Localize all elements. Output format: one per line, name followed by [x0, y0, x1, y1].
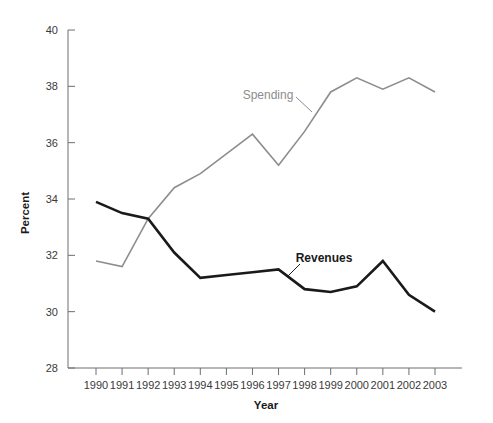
y-tick-label: 38	[46, 80, 58, 92]
y-tick-label: 34	[46, 193, 58, 205]
x-tick-label: 1997	[266, 379, 290, 391]
x-tick-label: 2003	[423, 379, 447, 391]
x-tick-label: 1993	[162, 379, 186, 391]
y-tick-label: 28	[46, 362, 58, 374]
series-line-revenues	[96, 202, 435, 312]
leader-line-spending	[296, 97, 312, 112]
x-tick-label: 2001	[371, 379, 395, 391]
x-tick-label: 1992	[136, 379, 160, 391]
x-tick-label: 2002	[397, 379, 421, 391]
y-axis-title: Percent	[19, 192, 31, 234]
y-axis-ticks: 28303234363840	[46, 24, 75, 374]
line-chart: 28303234363840 1990199119921993199419951…	[0, 0, 493, 423]
series-label-revenues: Revenues	[296, 251, 353, 265]
leader-line-revenues	[288, 264, 300, 276]
x-tick-label: 1996	[240, 379, 264, 391]
x-axis-title: Year	[254, 399, 279, 411]
x-tick-label: 1994	[188, 379, 212, 391]
x-tick-label: 1990	[84, 379, 108, 391]
data-series-group	[96, 78, 435, 312]
series-annotations: SpendingRevenues	[243, 88, 353, 276]
y-tick-label: 40	[46, 24, 58, 36]
y-tick-label: 32	[46, 249, 58, 261]
chart-container: 28303234363840 1990199119921993199419951…	[0, 0, 493, 423]
x-axis-ticks: 1990199119921993199419951996199719981999…	[84, 368, 447, 391]
x-tick-label: 2000	[345, 379, 369, 391]
x-tick-label: 1998	[292, 379, 316, 391]
series-label-spending: Spending	[243, 88, 294, 102]
y-tick-label: 36	[46, 137, 58, 149]
series-line-spending	[96, 78, 435, 267]
x-tick-label: 1991	[110, 379, 134, 391]
x-tick-label: 1995	[214, 379, 238, 391]
x-tick-label: 1999	[318, 379, 342, 391]
y-tick-label: 30	[46, 306, 58, 318]
